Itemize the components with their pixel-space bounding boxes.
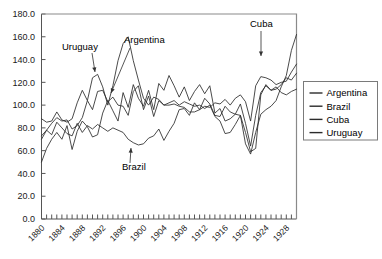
x-tick-label: 1916 <box>210 223 231 244</box>
series-line-cuba <box>42 64 297 122</box>
x-tick-label: 1884 <box>46 223 67 244</box>
legend[interactable]: ArgentinaBrazilCubaUruguay <box>304 82 378 141</box>
annotation-arrowhead-cuba <box>259 51 263 56</box>
y-axis <box>42 14 46 219</box>
x-tick-label: 1888 <box>67 223 88 244</box>
y-tick-label: 140.0 <box>12 55 35 65</box>
y-tick-label: 0.0 <box>22 214 35 224</box>
annotation-arrowhead-uruguay <box>92 67 96 72</box>
y-tick-label: 100.0 <box>12 100 35 110</box>
series-line-brazil <box>42 85 297 152</box>
y-tick-label: 60.0 <box>17 146 35 156</box>
x-tick-label: 1920 <box>230 223 251 244</box>
y-tick-label: 180.0 <box>12 9 35 19</box>
x-tick-label: 1928 <box>271 223 292 244</box>
x-tick-label: 1880 <box>26 223 47 244</box>
x-tick-label: 1900 <box>128 223 149 244</box>
annotation-label-uruguay: Uruguay <box>62 41 98 52</box>
x-axis <box>42 215 297 220</box>
y-tick-label: 120.0 <box>12 78 35 88</box>
legend-label-brazil[interactable]: Brazil <box>327 101 351 112</box>
legend-label-cuba[interactable]: Cuba <box>327 114 350 125</box>
x-tick-label: 1912 <box>189 223 210 244</box>
y-tick-label: 80.0 <box>17 123 35 133</box>
y-tick-label: 20.0 <box>17 191 35 201</box>
annotation-label-cuba: Cuba <box>250 18 273 29</box>
legend-label-argentina[interactable]: Argentina <box>327 87 368 98</box>
chart-canvas: 180.0160.0140.0120.0100.080.060.040.020.… <box>0 0 382 259</box>
x-axis-tick-labels: 1880188418881892189619001904190819121916… <box>26 223 291 244</box>
x-tick-label: 1908 <box>169 223 190 244</box>
x-tick-label: 1924 <box>250 223 271 244</box>
x-tick-label: 1892 <box>87 223 108 244</box>
line-chart: 180.0160.0140.0120.0100.080.060.040.020.… <box>0 0 382 259</box>
annotation-leader-argentina <box>111 48 130 93</box>
x-tick-label: 1904 <box>148 223 169 244</box>
annotation-label-brazil: Brazil <box>122 161 146 172</box>
x-tick-label: 1896 <box>108 223 129 244</box>
series-line-uruguay <box>42 35 297 155</box>
y-axis-tick-labels: 180.0160.0140.0120.0100.080.060.040.020.… <box>12 9 35 224</box>
y-tick-label: 40.0 <box>17 169 35 179</box>
y-tick-label: 160.0 <box>12 32 35 42</box>
annotation-label-argentina: Argentina <box>124 34 165 45</box>
annotation-arrowhead-brazil <box>129 148 133 153</box>
legend-label-uruguay[interactable]: Uruguay <box>327 127 363 138</box>
data-series-group <box>42 35 297 163</box>
annotations-group: UruguayArgentinaBrazilCuba <box>62 18 273 172</box>
